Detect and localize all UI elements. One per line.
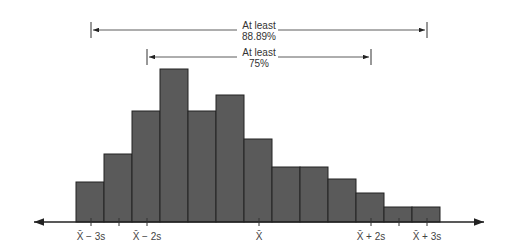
histogram-bar: [412, 207, 440, 222]
histogram-chart: X̄ − 3sX̄ − 2sX̄X̄ + 2sX̄ + 3s At least …: [0, 0, 506, 248]
histogram-bar: [132, 111, 160, 222]
histogram-bar: [356, 193, 384, 222]
histogram-bar: [300, 167, 328, 222]
histogram-bar: [244, 139, 272, 222]
histogram-bar: [76, 182, 104, 222]
annotation-label-line2: 88.89%: [242, 31, 276, 42]
histogram-bar: [384, 207, 412, 222]
x-tick-label: X̄ + 3s: [413, 230, 442, 242]
annotation-88-89: At least 88.89%: [91, 20, 427, 42]
annotation-label-line2: 75%: [249, 58, 269, 69]
x-tick-label: X̄ + 2s: [357, 230, 386, 242]
x-tick-label: X̄ − 2s: [133, 230, 162, 242]
annotation-75: At least 75%: [147, 47, 371, 69]
histogram-bar: [272, 167, 300, 222]
annotation-label-line1: At least: [242, 20, 276, 31]
histogram-bar: [188, 111, 216, 222]
histogram-bars: [76, 69, 440, 222]
x-tick-label: X̄ − 3s: [77, 230, 106, 242]
histogram-bar: [104, 154, 132, 222]
histogram-bar: [160, 69, 188, 222]
annotation-label-line1: At least: [242, 47, 276, 58]
x-tick-label: X̄: [256, 230, 263, 242]
histogram-bar: [328, 179, 356, 222]
histogram-bar: [216, 95, 244, 222]
